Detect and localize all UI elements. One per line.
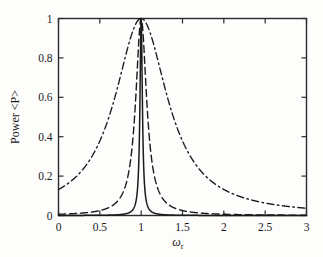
- curve-dashdot: [59, 19, 307, 209]
- x-tick-label: 0: [56, 221, 62, 233]
- curve-solid: [59, 19, 307, 216]
- figure-panel: 00.511.522.53 00.20.40.60.81 ωr Power <P…: [0, 0, 323, 257]
- y-axis-ticks: [59, 19, 307, 216]
- x-axis-tick-labels: 00.511.522.53: [56, 221, 310, 233]
- x-tick-label: 2: [221, 221, 227, 233]
- x-axis-ticks: [59, 19, 307, 216]
- x-tick-label: 2.5: [258, 221, 273, 233]
- data-curves: [59, 19, 307, 216]
- y-tick-label: 1: [47, 13, 53, 25]
- x-tick-label: 0.5: [93, 221, 108, 233]
- y-axis-title: Power <P>: [8, 90, 22, 144]
- x-tick-label: 1.5: [175, 221, 190, 233]
- y-tick-label: 0.4: [38, 131, 53, 143]
- curve-dashed: [59, 19, 307, 216]
- plot-frame: [59, 19, 307, 216]
- y-tick-label: 0.8: [38, 52, 53, 64]
- y-tick-label: 0: [47, 210, 53, 222]
- x-axis-title: ωr: [172, 235, 183, 251]
- y-axis-tick-labels: 00.20.40.60.81: [38, 13, 53, 222]
- y-tick-label: 0.6: [38, 91, 53, 103]
- x-tick-label: 3: [304, 221, 310, 233]
- y-tick-label: 0.2: [38, 170, 53, 182]
- resonance-chart: 00.511.522.53 00.20.40.60.81 ωr Power <P…: [0, 0, 323, 257]
- x-tick-label: 1: [138, 221, 144, 233]
